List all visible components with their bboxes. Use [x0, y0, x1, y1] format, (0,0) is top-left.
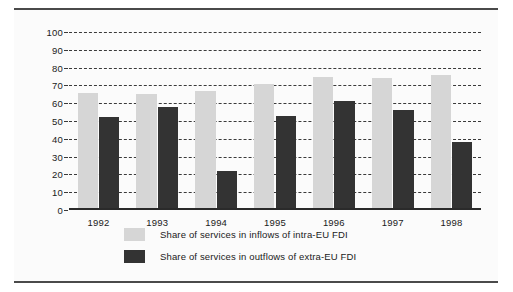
legend-swatch-dark	[124, 250, 145, 263]
bar-1995-series1	[254, 84, 274, 210]
y-axis-tick-mark	[64, 174, 68, 175]
bar-1995-series2	[276, 116, 296, 210]
y-axis-tick-label: 20	[52, 169, 63, 180]
y-axis-tick-mark	[64, 68, 68, 69]
bar-1996-series2	[334, 101, 354, 210]
y-axis-tick-label: 80	[52, 62, 63, 73]
gridline	[69, 32, 481, 33]
bar-1996-series1	[313, 77, 333, 211]
x-axis-tick-label: 1998	[441, 217, 463, 228]
y-axis-tick-label: 70	[52, 80, 63, 91]
y-axis-tick-mark	[64, 50, 68, 51]
x-axis-tick-label: 1992	[87, 217, 109, 228]
bar-1993-series2	[158, 107, 178, 210]
bar-1994-series1	[195, 91, 215, 210]
y-axis-tick-label: 30	[52, 151, 63, 162]
y-axis-tick-mark	[64, 85, 68, 86]
bar-1994-series2	[217, 171, 237, 210]
y-axis-tick-label: 60	[52, 98, 63, 109]
legend-item-outflows: Share of services in outflows of extra-E…	[124, 250, 356, 263]
y-axis-tick-label: 90	[52, 44, 63, 55]
y-axis-tick-label: 10	[52, 187, 63, 198]
x-axis-tick-label: 1997	[382, 217, 404, 228]
x-axis-tick-label: 1996	[323, 217, 345, 228]
y-axis-tick-mark	[64, 157, 68, 158]
chart-legend: Share of services in inflows of intra-EU…	[124, 228, 356, 263]
figure-frame: 1009080706050403020100 19921993199419951…	[14, 8, 498, 283]
plot-area: 1009080706050403020100 19921993199419951…	[69, 32, 481, 210]
bar-1998-series1	[431, 75, 451, 210]
y-axis-tick-label: 100	[47, 27, 63, 38]
y-axis-tick-label: 0	[58, 205, 63, 216]
y-axis-tick-mark	[64, 32, 68, 33]
legend-swatch-light	[124, 228, 145, 241]
legend-label-outflows: Share of services in outflows of extra-E…	[160, 251, 356, 262]
bar-1993-series1	[136, 94, 156, 210]
gridline	[69, 68, 481, 69]
y-axis-tick-mark	[64, 121, 68, 122]
y-axis-tick-label: 50	[52, 116, 63, 127]
chart-figure: 1009080706050403020100 19921993199419951…	[0, 0, 513, 292]
x-axis-tick-label: 1993	[146, 217, 168, 228]
gridline	[69, 85, 481, 86]
x-axis-tick-label: 1994	[205, 217, 227, 228]
legend-label-inflows: Share of services in inflows of intra-EU…	[160, 229, 348, 240]
y-axis-tick-mark	[64, 192, 68, 193]
gridline	[69, 103, 481, 104]
bar-1992-series2	[99, 117, 119, 210]
bar-1998-series2	[452, 142, 472, 210]
bar-1997-series1	[372, 78, 392, 210]
y-axis-tick-label: 40	[52, 133, 63, 144]
legend-item-inflows: Share of services in inflows of intra-EU…	[124, 228, 356, 241]
gridline	[69, 50, 481, 51]
y-axis-tick-mark	[64, 210, 68, 211]
bar-1997-series2	[393, 110, 413, 210]
x-axis-line	[69, 208, 481, 210]
y-axis-tick-mark	[64, 139, 68, 140]
y-axis-tick-mark	[64, 103, 68, 104]
bar-1992-series1	[78, 93, 98, 210]
x-axis-tick-label: 1995	[264, 217, 286, 228]
